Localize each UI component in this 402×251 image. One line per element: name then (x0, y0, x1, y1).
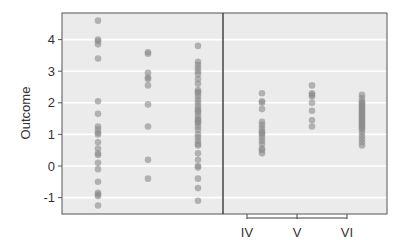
data-point (95, 41, 102, 48)
data-point (95, 160, 102, 167)
data-point (95, 152, 102, 159)
x-axis: IVVVI (241, 214, 353, 240)
data-point (259, 90, 266, 97)
y-axis: -101234 (43, 32, 62, 205)
data-point (309, 117, 316, 124)
data-point (259, 106, 266, 113)
data-point (309, 82, 316, 89)
data-point (195, 175, 202, 182)
data-point (259, 100, 266, 107)
data-point (145, 123, 152, 130)
x-tick-label: VI (341, 225, 353, 240)
y-tick-label: 0 (48, 159, 55, 174)
data-point (195, 150, 202, 157)
data-point (145, 101, 152, 108)
data-point (95, 139, 102, 146)
data-point (95, 131, 102, 138)
y-axis-label: Outcome (18, 87, 33, 140)
data-point (309, 93, 316, 100)
data-point (145, 156, 152, 163)
data-point (309, 107, 316, 114)
data-point (359, 142, 366, 149)
data-point (95, 166, 102, 173)
y-tick-label: 2 (48, 95, 55, 110)
data-point (145, 76, 152, 83)
y-tick-label: 4 (48, 32, 55, 47)
data-point (95, 111, 102, 118)
data-point (95, 179, 102, 186)
data-point (259, 150, 266, 157)
data-point (95, 98, 102, 105)
data-point (145, 51, 152, 58)
data-point (145, 82, 152, 89)
data-point (195, 156, 202, 163)
data-point (195, 164, 202, 171)
x-tick-label: IV (241, 225, 254, 240)
chart: -101234 IVVVI Outcome (0, 0, 402, 251)
data-point (195, 185, 202, 192)
data-point (95, 191, 102, 198)
data-point (195, 81, 202, 88)
y-tick-label: -1 (43, 190, 55, 205)
data-point (195, 142, 202, 149)
data-point (195, 43, 202, 50)
y-tick-label: 1 (48, 127, 55, 142)
x-tick-label: V (293, 225, 302, 240)
data-point (95, 55, 102, 62)
plot-panels (62, 13, 387, 214)
data-point (309, 123, 316, 130)
data-point (95, 17, 102, 24)
y-tick-label: 3 (48, 64, 55, 79)
data-point (195, 197, 202, 204)
data-point (309, 100, 316, 107)
data-point (145, 175, 152, 182)
data-point (95, 202, 102, 209)
